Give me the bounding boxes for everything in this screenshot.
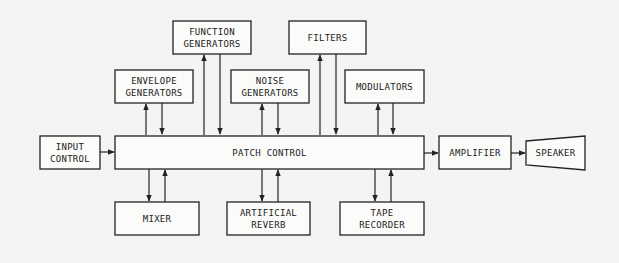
label-line: AMPLIFIER <box>449 148 501 158</box>
block-noise-generators: NOISE GENERATORS <box>231 70 309 103</box>
label-line: SPEAKER <box>535 148 575 158</box>
label-line: ENVELOPE <box>131 76 177 86</box>
block-envelope-generators: ENVELOPE GENERATORS <box>115 70 193 103</box>
label-line: CONTROL <box>50 154 90 164</box>
label-line: NOISE <box>256 76 285 86</box>
label-line: FILTERS <box>307 33 347 43</box>
label-line: MODULATORS <box>356 82 413 92</box>
label-line: GENERATORS <box>183 39 240 49</box>
block-tape-recorder: TAPE RECORDER <box>340 202 424 235</box>
label-line: INPUT <box>56 142 85 152</box>
label-line: REVERB <box>251 220 285 230</box>
block-artificial-reverb: ARTIFICIAL REVERB <box>227 202 310 235</box>
label-line: FUNCTION <box>189 27 235 37</box>
label-line: GENERATORS <box>241 88 298 98</box>
block-mixer: MIXER <box>115 202 199 235</box>
block-amplifier: AMPLIFIER <box>439 136 511 169</box>
block-modulators: MODULATORS <box>345 70 424 103</box>
label-line: GENERATORS <box>125 88 182 98</box>
label-line: TAPE <box>371 208 394 218</box>
synthesizer-block-diagram: FUNCTION GENERATORS FILTERS ENVELOPE GEN… <box>0 0 619 263</box>
block-input-control: INPUT CONTROL <box>40 136 100 169</box>
block-speaker: SPEAKER <box>526 136 585 170</box>
label-line: MIXER <box>143 214 172 224</box>
block-patch-control: PATCH CONTROL <box>115 136 424 169</box>
label-line: ARTIFICIAL <box>240 208 297 218</box>
label-line: PATCH CONTROL <box>232 148 306 158</box>
label-line: RECORDER <box>359 220 405 230</box>
block-filters: FILTERS <box>289 21 366 54</box>
block-function-generators: FUNCTION GENERATORS <box>173 21 251 54</box>
